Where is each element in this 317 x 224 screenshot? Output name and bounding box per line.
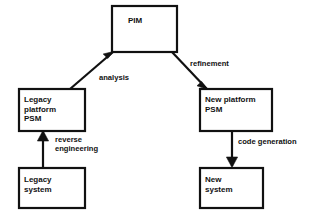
node-new-platform-psm-box[interactable] [200, 89, 272, 131]
edge-analysis[interactable] [70, 52, 114, 90]
node-pim-box[interactable] [112, 6, 177, 52]
diagram-canvas: PIM Legacy platform PSM Legacy system Ne… [0, 0, 317, 224]
edge-code-generation[interactable] [226, 131, 237, 168]
node-legacy-system-box[interactable] [19, 168, 85, 208]
node-legacy-platform-psm-box[interactable] [19, 89, 85, 131]
diagram-svg [0, 0, 317, 224]
node-new-system-box[interactable] [200, 168, 263, 208]
edge-reverse-engineering[interactable] [37, 131, 48, 169]
edge-refinement[interactable] [172, 52, 208, 90]
arrow-head-code-generation [226, 157, 237, 168]
arrow-head-analysis [103, 52, 113, 59]
